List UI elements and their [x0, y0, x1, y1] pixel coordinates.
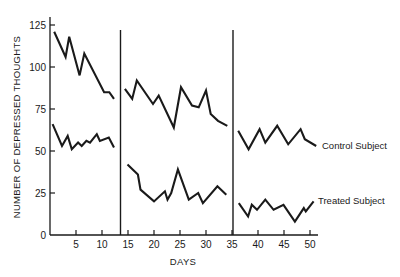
y-tick-label: 75	[35, 104, 47, 115]
y-tick-label: 0	[40, 230, 46, 241]
x-tick-label: 35	[226, 239, 238, 250]
line-chart: 0255075100125 5101520253035404550 DAYS N…	[0, 0, 400, 277]
y-tick-label: 25	[35, 188, 47, 199]
x-axis-title: DAYS	[170, 256, 196, 267]
x-tick-label: 45	[278, 239, 290, 250]
control-phase-2-line	[125, 80, 227, 127]
treated-phase-1-line	[53, 124, 114, 149]
y-tick-label: 125	[29, 20, 46, 31]
x-tick-label: 20	[148, 239, 160, 250]
treated-subject-label: Treated Subject	[318, 195, 385, 206]
treated-subject-series	[53, 124, 314, 222]
treated-phase-2-line	[128, 164, 227, 203]
x-tick-label: 5	[73, 239, 79, 250]
x-tick-label: 50	[304, 239, 316, 250]
x-tick-label: 30	[200, 239, 212, 250]
x-tick-label: 25	[174, 239, 186, 250]
control-phase-1-line	[54, 32, 114, 99]
x-tick-label: 15	[122, 239, 134, 250]
y-axis-title: NUMBER OF DEPRESSED THOUGHTS	[11, 36, 22, 218]
control-subject-label: Control Subject	[322, 140, 387, 151]
x-axis-ticks: 5101520253035404550	[73, 230, 316, 250]
y-tick-label: 100	[29, 62, 46, 73]
y-tick-label: 50	[35, 146, 47, 157]
control-subject-series	[54, 32, 316, 150]
control-phase-3-line	[238, 126, 316, 150]
y-axis-ticks: 0255075100125	[29, 20, 55, 241]
x-tick-label: 40	[252, 239, 264, 250]
treated-phase-3-line	[239, 200, 314, 222]
x-tick-label: 10	[96, 239, 108, 250]
